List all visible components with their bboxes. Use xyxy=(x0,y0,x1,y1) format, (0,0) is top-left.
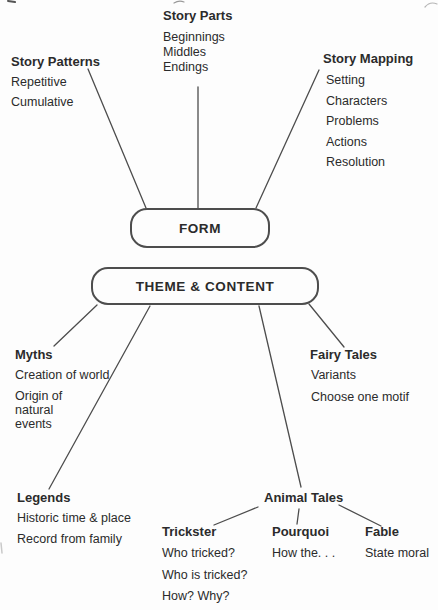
scan-artifact xyxy=(174,1,184,3)
story-mapping-item: Problems xyxy=(326,114,379,128)
connector-theme-fairy-tales xyxy=(309,304,344,347)
branch-title-story-patterns: Story Patterns xyxy=(11,54,100,69)
scan-artifact xyxy=(425,3,437,7)
theme-content-node: THEME & CONTENT xyxy=(91,267,319,305)
scan-artifact xyxy=(8,1,15,2)
branch-title-story-mapping: Story Mapping xyxy=(323,51,413,66)
trickster-item: How? Why? xyxy=(162,589,229,603)
form-node-label: FORM xyxy=(179,221,221,236)
legends-item: Record from family xyxy=(17,532,122,546)
trickster-item: Who is tricked? xyxy=(162,568,247,582)
connector-animal-trickster xyxy=(214,507,258,525)
story-concept-map: Story Parts Beginnings Middles Endings S… xyxy=(0,0,438,610)
story-mapping-item: Setting xyxy=(326,73,365,87)
fairy-tales-item: Variants xyxy=(311,368,356,382)
story-parts-item: Middles xyxy=(163,45,206,59)
branch-title-myths: Myths xyxy=(15,347,53,362)
story-mapping-item: Characters xyxy=(326,94,387,108)
story-parts-item: Beginnings xyxy=(163,30,225,44)
connector-story-patterns-form xyxy=(88,69,146,208)
connector-animal-fable xyxy=(339,505,381,526)
story-patterns-item: Cumulative xyxy=(11,95,74,109)
story-mapping-item: Resolution xyxy=(326,155,385,169)
branch-title-animal-tales: Animal Tales xyxy=(264,490,343,505)
branch-title-fairy-tales: Fairy Tales xyxy=(310,347,377,362)
trickster-item: Who tricked? xyxy=(162,546,235,560)
connector-story-mapping-form xyxy=(256,70,319,208)
scan-artifact xyxy=(1,543,2,553)
story-patterns-item: Repetitive xyxy=(11,75,67,89)
branch-title-story-parts: Story Parts xyxy=(163,8,232,23)
branch-title-trickster: Trickster xyxy=(162,524,216,539)
legends-item: Historic time & place xyxy=(17,511,131,525)
connector-theme-myths xyxy=(54,305,97,346)
story-parts-item: Endings xyxy=(163,60,208,74)
theme-content-node-label: THEME & CONTENT xyxy=(136,279,275,294)
branch-title-legends: Legends xyxy=(17,490,70,505)
pourquoi-item: How the. . . xyxy=(272,546,335,560)
myths-item: Origin of natural events xyxy=(15,389,87,431)
connector-animal-pourquoi xyxy=(297,509,299,524)
myths-item: Creation of world xyxy=(15,368,110,382)
branch-title-fable: Fable xyxy=(365,524,399,539)
story-mapping-item: Actions xyxy=(326,135,367,149)
fable-item: State moral xyxy=(365,546,429,560)
connector-theme-animal-tales xyxy=(259,306,301,487)
branch-title-pourquoi: Pourquoi xyxy=(272,524,329,539)
form-node: FORM xyxy=(130,208,270,248)
fairy-tales-item: Choose one motif xyxy=(311,390,409,404)
